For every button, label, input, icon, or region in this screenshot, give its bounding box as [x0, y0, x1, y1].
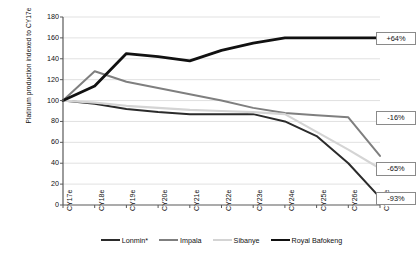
- legend-label: Lonmin*: [122, 236, 148, 245]
- legend-label: Sibanye: [234, 236, 260, 245]
- x-tick-label: CY22e: [225, 190, 232, 211]
- legend-item: Impala: [159, 236, 202, 245]
- plot-area: [0, 0, 418, 256]
- y-tick-label: 120: [33, 76, 59, 83]
- platinum-production-chart: Platinum production indexed to CY17e 020…: [0, 0, 418, 256]
- y-tick-label: 60: [33, 138, 59, 145]
- y-tick-label: 0: [33, 201, 59, 208]
- callout-16: -16%: [376, 111, 416, 124]
- callout-93: -93%: [376, 192, 416, 205]
- x-tick-label: CY24e: [288, 190, 295, 211]
- chart-legend: Lonmin*ImpalaSibanyeRoyal Bafokeng: [63, 232, 380, 248]
- x-tick-label: CY21e: [193, 190, 200, 211]
- y-tick-label: 180: [33, 13, 59, 20]
- x-tick-label: CY26e: [351, 190, 358, 211]
- x-tick-label: CY20e: [161, 190, 168, 211]
- legend-swatch: [159, 239, 178, 241]
- callout-65: -65%: [376, 162, 416, 175]
- y-axis-tick-labels: 020406080100120140160180: [30, 0, 59, 256]
- callout-64: +64%: [376, 32, 416, 45]
- legend-swatch: [213, 239, 232, 241]
- y-tick-label: 80: [33, 117, 59, 124]
- y-tick-label: 100: [33, 97, 59, 104]
- x-tick-label: CY25e: [320, 190, 327, 211]
- legend-swatch: [101, 239, 120, 241]
- y-tick-label: 160: [33, 34, 59, 41]
- x-tick-label: CY19e: [129, 190, 136, 211]
- legend-item: Sibanye: [213, 236, 260, 245]
- legend-label: Royal Bafokeng: [292, 236, 343, 245]
- legend-item: Lonmin*: [101, 236, 148, 245]
- x-tick-label: CY17e: [66, 190, 73, 211]
- legend-item: Royal Bafokeng: [271, 236, 343, 245]
- y-tick-label: 40: [33, 159, 59, 166]
- y-tick-label: 20: [33, 180, 59, 187]
- legend-swatch: [271, 239, 290, 242]
- legend-label: Impala: [180, 236, 202, 245]
- x-tick-label: CY18e: [98, 190, 105, 211]
- x-tick-label: CY23e: [256, 190, 263, 211]
- y-tick-label: 140: [33, 55, 59, 62]
